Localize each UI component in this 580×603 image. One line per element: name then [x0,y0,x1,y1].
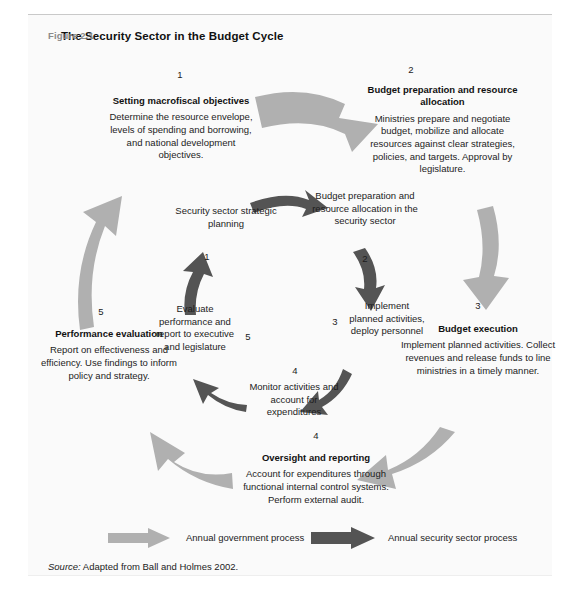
outer-step-4-body: Account for expenditures through functio… [230,468,402,506]
outer-step-1-heading: Setting macrofiscal objectives [105,95,257,107]
inner-step-1-number: 1 [197,251,217,262]
outer-step-5-number: 5 [86,306,116,317]
legend-security-arrow-swatch [311,527,381,549]
outer-step-4-heading: Oversight and reporting [230,452,402,464]
inner-step-2-label: Budget preparation and resource allocati… [312,190,418,228]
outer-step-1-number: 1 [165,69,195,80]
legend-government-label: Annual government process [186,532,304,543]
inner-step-5-number: 5 [238,331,258,342]
outer-step-2-block: Budget preparation and resource allocati… [360,84,525,176]
outer-arrow-2-to-3 [463,206,509,310]
source-text: Adapted from Ball and Holmes 2002. [81,561,238,572]
outer-step-1-body: Determine the resource envelope, levels … [105,111,257,162]
outer-step-1-block: Setting macrofiscal objectives Determine… [105,95,257,162]
outer-step-4-block: Oversight and reporting Account for expe… [230,452,402,506]
inner-arrow-4-to-5 [193,379,247,412]
legend-government-arrow-swatch [108,527,178,549]
inner-step-1-label: Security sector strategic planning [174,205,278,230]
outer-step-2-heading: Budget preparation and resource allocati… [360,84,525,109]
figure-source: Source: Adapted from Ball and Holmes 200… [48,561,238,572]
outer-step-3-number: 3 [463,300,493,311]
outer-arrow-4-to-5 [150,432,233,489]
inner-step-2-number: 2 [355,253,375,264]
inner-step-3-number: 3 [325,316,345,327]
inner-step-3-label: Implement planned activities, deploy per… [349,300,425,338]
outer-step-4-number: 4 [301,430,331,441]
inner-step-5-label: Evaluate performance and report to execu… [152,303,238,354]
inner-step-4-number: 4 [285,365,305,376]
inner-step-4-label: Monitor activities and account for expen… [248,381,340,419]
outer-step-3-body: Implement planned activities. Collect re… [399,339,557,377]
outer-step-2-body: Ministries prepare and negotiate budget,… [360,113,525,176]
outer-step-2-number: 2 [396,64,426,75]
source-label: Source: [48,561,81,572]
legend-security-label: Annual security sector process [388,532,517,543]
